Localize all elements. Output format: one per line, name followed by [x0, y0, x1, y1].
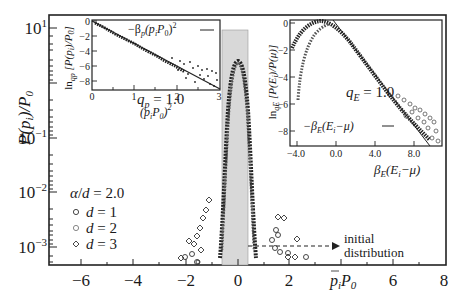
- main-legend: α/d = 2.0 d = 1 d = 2 d = 3: [70, 185, 124, 252]
- svg-text:(piP0)2: (piP0)2: [140, 103, 172, 121]
- svg-text:α/d = 2.0: α/d = 2.0: [70, 185, 124, 201]
- svg-text:2: 2: [175, 91, 180, 102]
- svg-text:−2: −2: [278, 46, 288, 56]
- svg-text:8.0: 8.0: [408, 148, 421, 159]
- svg-text:−4: −4: [124, 271, 143, 290]
- svg-text:initial: initial: [344, 231, 375, 246]
- legend-marker-d3: [73, 241, 79, 247]
- svg-text:−βE(Ei−μ): −βE(Ei−μ): [303, 119, 354, 135]
- svg-text:distribution: distribution: [344, 245, 404, 260]
- svg-text:−8: −8: [79, 76, 90, 87]
- svg-text:0.0: 0.0: [330, 148, 343, 159]
- svg-text:8: 8: [440, 271, 449, 290]
- svg-text:0: 0: [90, 91, 95, 102]
- svg-text:−6: −6: [72, 271, 90, 290]
- legend-marker-d1: [73, 209, 78, 214]
- svg-text:−4: −4: [79, 46, 90, 57]
- svg-text:−4.0: −4.0: [287, 148, 305, 159]
- svg-text:2: 2: [285, 271, 294, 290]
- svg-text:−βp(piP0)2: −βp(piP0)2: [128, 21, 176, 38]
- chart-canvas: −6 −4 −2 0 2 6 8 piP0 101 10−1 10−2 10−3…: [0, 0, 462, 298]
- main-y-axis-label: P(pi)/P0: [15, 91, 35, 146]
- svg-text:0: 0: [283, 19, 288, 29]
- svg-text:−8: −8: [278, 127, 288, 137]
- svg-text:piP0: piP0: [329, 272, 357, 291]
- svg-text:−2: −2: [79, 31, 90, 42]
- initial-distribution-annotation: initial distribution: [248, 231, 404, 260]
- svg-text:lnqp [P(pi)/P0]: lnqp [P(pi)/P0]: [62, 26, 77, 89]
- main-x-tick-labels: −6 −4 −2 0 2 6 8: [72, 271, 448, 290]
- svg-text:d = 2: d = 2: [86, 220, 117, 236]
- svg-text:d = 1: d = 1: [86, 204, 117, 220]
- svg-text:101: 101: [25, 17, 48, 38]
- svg-text:3: 3: [217, 91, 222, 102]
- svg-text:P(pi)/P0: P(pi)/P0: [15, 91, 35, 146]
- inset-right: 0−2 −4−6−8 −4.00.0 4.08.0 βE(Ei−μ) lnqE …: [266, 19, 442, 179]
- svg-text:6: 6: [389, 271, 398, 290]
- svg-text:0: 0: [234, 271, 243, 290]
- svg-text:d = 3: d = 3: [86, 236, 117, 252]
- legend-marker-d2: [73, 225, 78, 230]
- svg-text:4.0: 4.0: [369, 148, 382, 159]
- svg-text:−6: −6: [79, 61, 90, 72]
- svg-text:10−2: 10−2: [18, 181, 47, 202]
- svg-text:1: 1: [132, 91, 137, 102]
- svg-text:βE(Ei−μ): βE(Ei−μ): [373, 162, 420, 179]
- inset-left: 0−2 −4−6−8 01 23 (piP0)2 lnqp [P(pi)/P0]…: [62, 16, 222, 121]
- svg-text:0: 0: [85, 16, 90, 27]
- svg-text:−2: −2: [177, 271, 195, 290]
- main-y-ticks: [49, 28, 57, 262]
- main-x-axis-label: piP0: [329, 271, 357, 291]
- svg-text:10−3: 10−3: [18, 236, 47, 257]
